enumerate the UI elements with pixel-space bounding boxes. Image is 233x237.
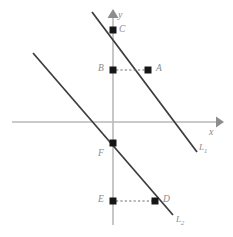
- point-d: [152, 198, 159, 205]
- line-label-l2: L2: [176, 215, 184, 226]
- coordinate-figure: y x C B A F E D L1 L2: [0, 0, 233, 237]
- line-l2: [33, 53, 173, 215]
- line-label-l1-subscript: 1: [204, 147, 207, 154]
- point-label-b: B: [98, 64, 104, 74]
- point-label-d: D: [163, 195, 170, 205]
- point-label-f: F: [98, 149, 104, 159]
- point-label-a: A: [156, 64, 162, 74]
- y-axis-label: y: [118, 10, 122, 20]
- figure-canvas: [0, 0, 233, 237]
- x-axis-label: x: [209, 127, 213, 137]
- x-axis-arrowhead: [216, 117, 224, 128]
- point-label-e: E: [98, 195, 104, 205]
- line-label-l1: L1: [199, 143, 207, 154]
- point-c: [110, 27, 117, 34]
- line-l1: [92, 12, 197, 152]
- point-e: [110, 198, 117, 205]
- point-a: [145, 67, 152, 74]
- point-label-c: C: [119, 25, 125, 35]
- point-f: [110, 140, 117, 147]
- line-label-l2-subscript: 2: [181, 219, 184, 226]
- point-b: [110, 67, 117, 74]
- y-axis-arrowhead: [108, 9, 119, 18]
